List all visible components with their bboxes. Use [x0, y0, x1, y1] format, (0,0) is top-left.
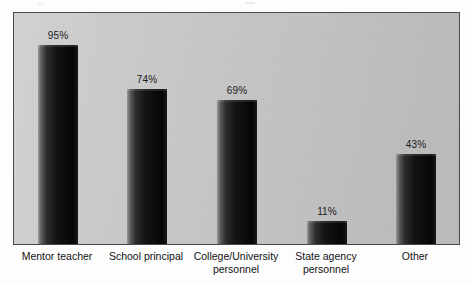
category-label-5: Other [360, 250, 470, 263]
scan-artifact-icon [38, 3, 43, 5]
category-axis: Mentor teacherSchool principalCollege/Un… [13, 250, 460, 283]
bar-value-label: 11% [289, 206, 365, 217]
plot-area: 95%74%69%11%43% [13, 12, 460, 245]
bar-value-label: 43% [378, 139, 454, 150]
bar-2 [127, 89, 167, 244]
bars-layer: 95%74%69%11%43% [14, 13, 459, 244]
bar-value-label: 69% [199, 85, 275, 96]
scan-artifact-icon [246, 2, 255, 4]
bar-value-label: 74% [109, 74, 185, 85]
bar-3 [217, 100, 257, 244]
bar-value-label: 95% [20, 30, 96, 41]
bar-4 [307, 221, 347, 244]
bar-chart-figure: 95%74%69%11%43% Mentor teacherSchool pri… [0, 0, 472, 283]
bar-1 [38, 45, 78, 244]
bar-5 [396, 154, 436, 244]
